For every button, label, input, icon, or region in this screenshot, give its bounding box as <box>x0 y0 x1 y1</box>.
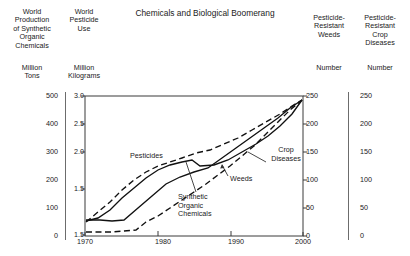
series-label-line: Chemicals <box>178 210 212 219</box>
series-label-pesticides: Pesticides <box>130 152 163 161</box>
annotation-leaders <box>186 152 266 192</box>
series-label-weeds: Weeds <box>230 175 252 184</box>
chart-figure: Chemicals and Biological Boomerang World… <box>0 0 410 256</box>
right-axis-ticks <box>303 96 307 236</box>
left-axis-ticks <box>81 96 85 235</box>
series-label-crop-diseases: Crop Diseases <box>265 146 307 163</box>
series-label-line: Diseases <box>265 155 307 164</box>
series-label-synthetic-organic-chemicals: Synthetic Organic Chemicals <box>178 193 212 219</box>
